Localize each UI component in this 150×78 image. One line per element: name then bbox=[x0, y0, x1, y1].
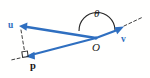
vector-projection-figure: u v p θ O bbox=[0, 0, 150, 78]
label-vector-v: v bbox=[121, 35, 126, 45]
origin-point bbox=[95, 37, 98, 40]
label-angle-theta: θ bbox=[94, 8, 99, 19]
vector-v bbox=[96, 31, 116, 39]
right-angle-marker bbox=[22, 51, 28, 57]
vector-diagram-svg bbox=[0, 0, 150, 78]
label-vector-u: u bbox=[8, 21, 13, 31]
vector-p-arrowhead bbox=[26, 52, 36, 60]
vector-u bbox=[24, 27, 96, 39]
vector-u-arrowhead bbox=[19, 23, 28, 31]
vector-p bbox=[31, 38, 96, 55]
dashed-left-stub bbox=[11, 58, 20, 60]
label-vector-p: p bbox=[30, 61, 36, 72]
label-origin-o: O bbox=[92, 42, 100, 53]
dashed-perpendicular bbox=[21, 30, 25, 51]
dashed-v-extension bbox=[124, 17, 143, 26]
